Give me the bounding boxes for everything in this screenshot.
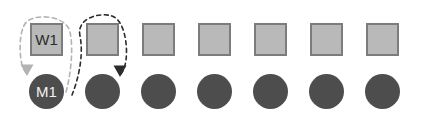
machine-node-1-label: M1 xyxy=(36,84,57,99)
assignment-diagram: W1 M1 xyxy=(0,0,424,127)
machine-node-2[interactable] xyxy=(85,74,120,109)
machine-node-1[interactable]: M1 xyxy=(29,74,64,109)
machine-node-7[interactable] xyxy=(365,74,400,109)
machine-node-6[interactable] xyxy=(309,74,344,109)
machine-node-5[interactable] xyxy=(253,74,288,109)
machine-node-4[interactable] xyxy=(197,74,232,109)
machine-node-3[interactable] xyxy=(141,74,176,109)
machine-row: M1 xyxy=(0,0,424,127)
